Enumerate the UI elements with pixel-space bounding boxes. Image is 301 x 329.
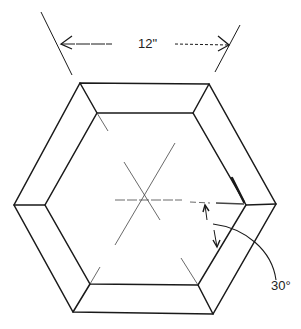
- leader-line: [213, 224, 276, 280]
- extension-line-right: [215, 25, 240, 72]
- outer-hexagon: [14, 83, 276, 314]
- arrowhead-left-icon: [61, 36, 72, 49]
- shade-stroke: [232, 178, 244, 202]
- construction-lines: [90, 113, 244, 285]
- dimension-label: 12": [138, 37, 157, 50]
- miter-lines: [14, 83, 276, 314]
- angle-label: 30°: [271, 279, 291, 292]
- inner-hexagon: [45, 113, 246, 285]
